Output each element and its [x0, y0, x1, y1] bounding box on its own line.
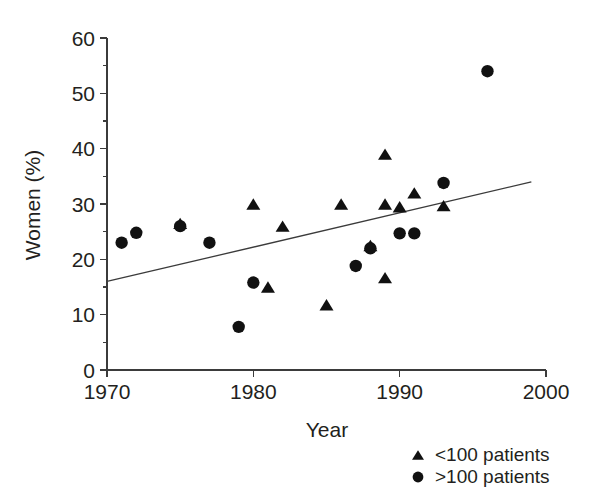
y-axis-title: Women (%): [21, 150, 44, 260]
data-point-circle: [247, 276, 259, 288]
y-tick-label: 50: [72, 82, 95, 105]
data-point-circle: [233, 321, 245, 333]
data-point-circle: [350, 260, 362, 272]
data-point-circle: [130, 227, 142, 239]
legend-label: <100 patients: [435, 444, 550, 465]
x-axis-title: Year: [306, 418, 348, 441]
data-point-circle: [364, 242, 376, 254]
data-point-circle: [481, 65, 493, 77]
x-tick-label: 1990: [376, 380, 423, 403]
x-tick-label: 2000: [523, 380, 570, 403]
y-tick-label: 0: [83, 359, 95, 382]
y-tick-label: 30: [72, 193, 95, 216]
data-point-circle: [408, 227, 420, 239]
scatter-plot-figure: 0102030405060 1970198019902000 Women (%)…: [0, 0, 616, 501]
y-tick-label: 60: [72, 27, 95, 50]
legend-label: >100 patients: [435, 466, 550, 487]
legend-circle-icon: [413, 472, 424, 483]
y-tick-label: 20: [72, 248, 95, 271]
data-point-circle: [115, 237, 127, 249]
data-point-circle: [393, 227, 405, 239]
data-point-circle: [437, 177, 449, 189]
data-point-circle: [174, 220, 186, 232]
data-point-circle: [203, 237, 215, 249]
y-tick-label: 10: [72, 303, 95, 326]
chart-canvas: 0102030405060 1970198019902000 Women (%)…: [0, 0, 616, 501]
y-tick-label: 40: [72, 137, 95, 160]
x-tick-label: 1980: [230, 380, 277, 403]
x-tick-label: 1970: [84, 380, 131, 403]
